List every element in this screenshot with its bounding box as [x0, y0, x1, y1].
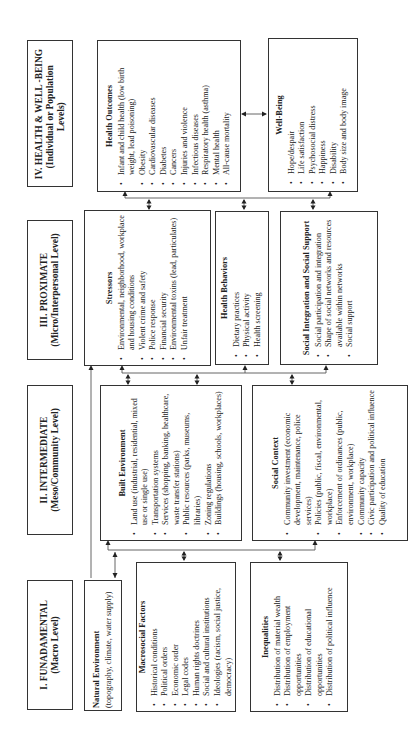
- list-item: Political orders: [160, 567, 171, 696]
- list-item: Respiratory health (asthma): [201, 46, 212, 175]
- list-item: Health screening: [253, 218, 264, 347]
- social-context-box: Social Context Community investment (eco…: [252, 385, 408, 541]
- list-item: Cancers: [169, 46, 180, 175]
- natural-environment-box: Natural Environment (topography, climate…: [84, 580, 122, 711]
- list-item: Services (shopping, banking, healthcare,…: [161, 390, 182, 525]
- level-title: IV. HEALTH & WELL -BEING: [34, 48, 45, 179]
- health-outcomes-box: Health Outcomes Infant and child health …: [97, 40, 241, 192]
- level-subtitle: (Macro Level): [50, 600, 61, 690]
- box-title: Social Context: [271, 390, 282, 536]
- box-title: Inequalities: [261, 567, 272, 707]
- list-item: Unfair treatment: [180, 215, 191, 350]
- box-title: Health Behaviors: [220, 218, 231, 358]
- health-behaviors-list: Dietary practices Physical activity Heal…: [232, 218, 264, 358]
- well-being-box: Well-Being Hope/despair Life satisfactio…: [268, 38, 358, 192]
- level-title: III. PROXIMATE: [39, 233, 50, 347]
- list-item: Land use (industrial, residential, mixed…: [129, 390, 150, 525]
- list-item: Injuries and violence: [180, 46, 191, 175]
- list-item: Distribution of political influence: [326, 567, 337, 696]
- list-item: Transportation systems: [150, 390, 161, 525]
- list-item: Hope/despair: [287, 45, 298, 174]
- list-item: Distribution of educational opportunitie…: [305, 567, 326, 696]
- level-subtitle: (Micro/Interpersonal Level): [50, 233, 61, 347]
- level-header-fundamental: I. FUNADAMENTAL (Macro Level): [27, 580, 73, 710]
- level-subtitle: (Meso/Community Level): [50, 408, 61, 512]
- list-item: Diabetes: [159, 46, 170, 175]
- level-title: I. FUNADAMENTAL: [39, 600, 50, 690]
- list-item: Economic order: [171, 567, 182, 696]
- stressors-box: Stressors Environmental, neighborhood, w…: [84, 210, 211, 366]
- list-item: Police response: [148, 215, 159, 350]
- list-item: Social and cultural institutions: [202, 567, 213, 696]
- health-behaviors-box: Health Behaviors Dietary practices Physi…: [215, 211, 269, 365]
- list-item: Legal codes: [181, 567, 192, 696]
- well-being-list: Hope/despair Life satisfaction Psychosoc…: [287, 45, 351, 185]
- level-title: II. INTERMEDIATE: [39, 408, 50, 512]
- list-item: Infectious diseases: [191, 46, 202, 175]
- list-item: Body size and body image: [340, 45, 351, 174]
- level-header-health-well-being: IV. HEALTH & WELL -BEING (Individual or …: [27, 40, 73, 187]
- list-item: Public resources (parks, museums, librar…: [182, 390, 203, 525]
- list-item: Dietary practices: [232, 218, 243, 347]
- list-item: Social participation and integration: [314, 218, 325, 347]
- list-item: Psychosocial distress: [308, 45, 319, 174]
- list-item: Obesity: [138, 46, 149, 175]
- box-title: Natural Environment: [92, 584, 103, 708]
- macrosocial-factors-list: Historical conditions Political orders E…: [149, 567, 234, 707]
- list-item: Distribution of employment opportunities: [284, 567, 305, 696]
- list-item: Life satisfaction: [298, 45, 309, 174]
- box-title: Well-Being: [275, 45, 286, 185]
- built-environment-box: Built Environment Land use (industrial, …: [100, 385, 242, 541]
- box-title: Built Environment: [118, 390, 129, 536]
- list-item: Cardiovascular diseases: [148, 46, 159, 175]
- list-item: Happiness: [319, 45, 330, 174]
- list-item: Infant and child health (low birth weigh…: [116, 46, 137, 175]
- macrosocial-factors-box: Macrosocial Factors Historical condition…: [136, 562, 236, 712]
- list-item: Historical conditions: [149, 567, 160, 696]
- list-item: Civic participation and political influe…: [368, 390, 379, 525]
- list-item: Physical activity: [242, 218, 253, 347]
- list-item: Mental health: [212, 46, 223, 175]
- list-item: Community capacity: [357, 390, 368, 525]
- list-item: Buildings (housing, schools, workplaces): [214, 390, 225, 525]
- built-environment-list: Land use (industrial, residential, mixed…: [129, 390, 224, 536]
- list-item: Shape of social networks and resources a…: [324, 218, 345, 347]
- list-item: Financial security: [159, 215, 170, 350]
- list-item: Violent crime and safety: [137, 215, 148, 350]
- social-context-list: Community investment (economic developme…: [283, 390, 389, 536]
- level-subtitle: (Individual or Population Levels): [45, 54, 67, 179]
- list-item: Human rights doctrines: [192, 567, 203, 696]
- list-item: Social support: [345, 218, 356, 347]
- list-item: Disability: [329, 45, 340, 174]
- box-title: Stressors: [105, 215, 116, 361]
- list-item: All-cause mortality: [222, 46, 233, 175]
- level-header-proximate: III. PROXIMATE (Micro/Interpersonal Leve…: [27, 220, 73, 360]
- level-header-intermediate: II. INTERMEDIATE (Meso/Community Level): [27, 385, 73, 535]
- stressors-list: Environmental, neighborhood, workplace a…: [116, 215, 190, 361]
- inequalities-box: Inequalities Distribution of material we…: [250, 562, 348, 712]
- natural-environment-text: (topography, climate, water supply): [104, 584, 115, 708]
- list-item: Community investment (economic developme…: [283, 390, 315, 525]
- box-title: Health Outcomes: [105, 46, 116, 186]
- health-outcomes-list: Infant and child health (low birth weigh…: [116, 46, 233, 186]
- list-item: Ideologies (racism, social justice, demo…: [213, 567, 234, 696]
- list-item: Policies (public, fiscal, environmental,…: [315, 390, 336, 525]
- box-title: Social Integration and Social Support: [302, 218, 313, 358]
- social-integration-box: Social Integration and Social Support So…: [280, 211, 378, 365]
- list-item: Distribution of material wealth: [273, 567, 284, 696]
- inequalities-list: Distribution of material wealth Distribu…: [273, 567, 337, 707]
- box-title: Macrosocial Factors: [138, 567, 149, 707]
- list-item: Zoning regulations: [203, 390, 214, 525]
- list-item: Environmental toxins (lead, particulates…: [169, 215, 180, 350]
- social-integration-list: Social participation and integration Sha…: [314, 218, 356, 358]
- list-item: Quality of education: [378, 390, 389, 525]
- list-item: Enforcement of ordinances (public, envir…: [336, 390, 357, 525]
- list-item: Environmental, neighborhood, workplace a…: [116, 215, 137, 350]
